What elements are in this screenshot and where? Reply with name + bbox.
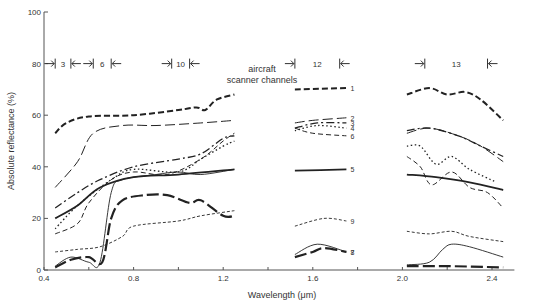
x-tick-label: 0.8 (128, 274, 140, 283)
x-tick-label: 0.4 (38, 274, 50, 283)
y-tick-label: 100 (28, 8, 42, 17)
series-9: 9 (55, 211, 503, 252)
series-lines: 123456789 (55, 85, 503, 268)
annotation-line-1: aircraft (248, 64, 276, 74)
svg-text:10: 10 (176, 60, 185, 69)
series-3: 3 (55, 120, 503, 208)
y-tick-label: 60 (32, 111, 41, 120)
series-label: 9 (350, 218, 354, 225)
x-axis-label: Wavelength (μm) (248, 290, 316, 300)
series-6: 6 (55, 128, 503, 234)
y-tick-label: 0 (37, 266, 42, 275)
series-1: 1 (55, 85, 503, 133)
series-label: 5 (350, 166, 354, 173)
axes: 0.40.81.21.62.02.4020406080100 (28, 8, 515, 283)
reflectance-chart: 0.40.81.21.62.02.4020406080100 36101213 … (0, 0, 540, 302)
series-label: 6 (350, 133, 354, 140)
x-tick-label: 2.4 (486, 274, 498, 283)
series-5: 5 (55, 166, 503, 218)
svg-text:6: 6 (100, 60, 105, 69)
channel-12: 12 (285, 59, 350, 69)
annotation-line-2: scanner channels (227, 75, 298, 85)
series-label: 4 (350, 125, 354, 132)
svg-text:12: 12 (313, 60, 322, 69)
y-tick-label: 20 (32, 214, 41, 223)
y-tick-label: 40 (32, 163, 41, 172)
channel-13: 13 (415, 59, 498, 69)
svg-text:3: 3 (61, 60, 66, 69)
x-tick-label: 1.6 (307, 274, 319, 283)
chart-canvas: 0.40.81.21.62.02.4020406080100 36101213 … (0, 0, 540, 302)
series-7: 7 (55, 169, 503, 267)
y-tick-label: 80 (32, 60, 41, 69)
x-tick-label: 2.0 (397, 274, 409, 283)
x-tick-label: 1.2 (218, 274, 230, 283)
channel-10: 10 (162, 59, 200, 69)
channel-6: 6 (83, 59, 121, 69)
svg-text:13: 13 (452, 60, 461, 69)
channel-3: 3 (45, 59, 81, 69)
series-label: 8 (350, 249, 354, 256)
y-axis-label: Absolute reflectance (%) (6, 92, 16, 190)
series-label: 1 (350, 85, 354, 92)
